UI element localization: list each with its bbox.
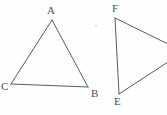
scan-speck-icon bbox=[95, 25, 97, 27]
edge-ab bbox=[52, 20, 88, 87]
edge-cb bbox=[11, 84, 88, 87]
geometry-figure: A B C F E bbox=[0, 0, 167, 115]
edge-ca bbox=[11, 20, 52, 84]
vertex-label-f: F bbox=[112, 3, 118, 14]
triangle-abc-group bbox=[11, 20, 88, 87]
edge-fe bbox=[115, 18, 119, 94]
edge-f-right bbox=[115, 18, 167, 44]
vertex-label-c: C bbox=[1, 81, 8, 92]
figure-canvas bbox=[0, 0, 167, 115]
vertex-label-b: B bbox=[91, 88, 98, 99]
vertex-label-e: E bbox=[114, 96, 121, 107]
edge-e-right bbox=[119, 62, 167, 94]
vertex-label-a: A bbox=[47, 5, 55, 16]
triangle-def-partial-group bbox=[115, 18, 167, 94]
